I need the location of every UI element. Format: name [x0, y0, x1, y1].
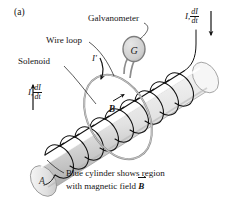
galvanometer: G: [123, 37, 145, 62]
caption-field-vector-symbol: B: [138, 180, 144, 193]
current-derivative-left: dIdt: [33, 84, 42, 101]
svg-text:B: B: [108, 104, 115, 114]
derivative-denominator-left: dt: [33, 92, 42, 101]
induced-current-label: I′: [92, 54, 97, 63]
current-label-left: I,dIdt: [28, 84, 42, 101]
current-derivative-right: dIdt: [190, 8, 199, 25]
caption-line-1: Blue cylinder shows region: [66, 168, 165, 178]
galvanometer-symbol-text: G: [130, 45, 137, 56]
derivative-denominator-right: dt: [190, 16, 199, 25]
derivative-numerator-left: dI: [33, 84, 42, 92]
current-label-right: I,dIdt: [185, 8, 199, 25]
figure-caption: Blue cylinder shows region with magnetic…: [66, 167, 165, 192]
solenoid-label: Solenoid: [18, 57, 50, 66]
derivative-numerator-right: dI: [190, 8, 199, 16]
panel-label: (a): [14, 8, 25, 18]
cylinder-end-label-a: A: [38, 176, 45, 186]
galvanometer-label: Galvanometer: [88, 14, 139, 23]
caption-line-2-prefix: with magnetic field: [66, 181, 138, 191]
wire-loop-label: Wire loop: [46, 36, 82, 45]
